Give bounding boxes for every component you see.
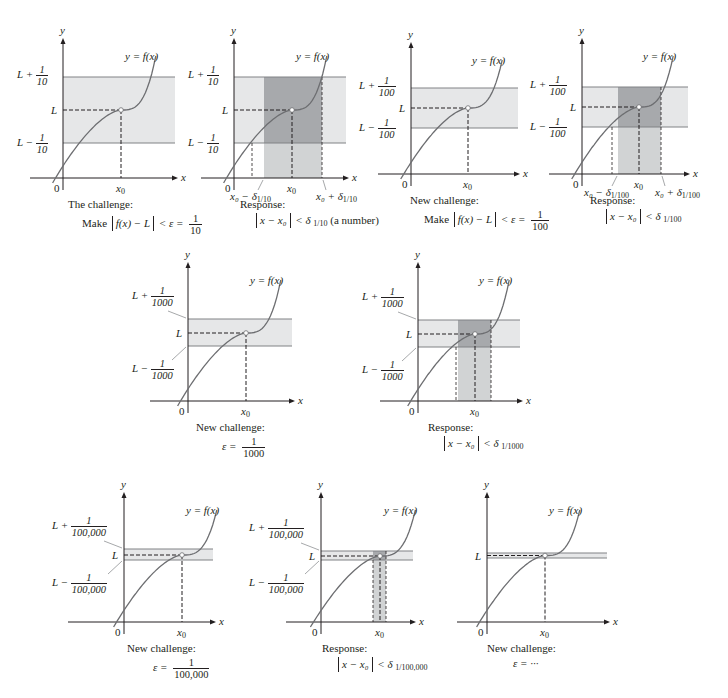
fraction-denominator: 10 [36,143,49,155]
function-curve [310,510,415,627]
origin-label: 0 [54,182,60,194]
caption-math: x − x₀ < δ 1/1000 [428,436,524,453]
lower-bound-prefix: L − [362,363,381,375]
lower-bound-prefix: L − [249,576,268,588]
upper-bound-prefix: L + [530,78,549,90]
fraction-numerator: 1 [192,213,199,224]
x-axis-label: x [526,394,531,406]
panel-caption: New challenge: ε = 11000 [196,421,265,459]
L-label: L [112,549,118,561]
y-axis-label: y [121,478,126,490]
fraction-numerator: 1 [383,75,390,86]
lower-bound-prefix: L − [132,362,151,374]
lower-bound-fraction: 1100 [549,116,567,139]
absolute-value-expression: f(x) − L [454,212,496,227]
fraction-denominator: 1000 [151,296,174,308]
caption-subscript: 1/100,000 [395,663,427,672]
L-label: L [51,104,57,116]
x-axis-label: x [352,171,357,183]
lower-bound-fraction: 1100 [378,117,396,140]
lower-bound-fraction: 1100,000 [268,572,304,595]
x0-label: x0 [470,405,479,421]
epsilon-fraction: 11000 [242,436,265,459]
figure-canvas [0,0,728,698]
fraction-numerator: 1 [554,74,561,85]
upper-bound-label: L + 110 [188,64,219,87]
lower-bound-label: L − 1100 [530,116,567,139]
absolute-value-expression: x − x₀ [606,209,641,224]
epsilon-fraction: 1100,000 [173,657,209,680]
caption-relation: ε = [153,661,170,673]
fraction-denominator: 1000 [242,447,265,459]
upper-bound-label: L + 11000 [132,285,174,308]
x0-subscript: 0 [121,187,125,196]
x-axis-arrow-icon [343,176,349,181]
function-curve [477,510,580,627]
x0-subscript: 0 [380,631,384,640]
origin-label: 0 [115,626,121,638]
x0-label: x0 [177,626,186,642]
x-axis-arrow-icon [172,176,178,181]
lower-bound-label: L − 11000 [362,359,404,382]
delta-left-leader [612,176,617,186]
absolute-value-expression: x − x₀ [444,436,479,451]
limit-point-marker [180,553,185,558]
x-axis-arrow-icon [514,172,520,177]
limit-point-marker [466,106,471,111]
fraction-numerator: 1 [85,572,92,583]
lower-bound-prefix: L − [52,576,71,588]
caption-subscript: 1/1000 [501,442,523,451]
origin-label: 0 [179,405,185,417]
delta-strip [264,143,322,178]
x0-subscript: 0 [475,410,479,419]
lower-bound-prefix: L − [359,121,378,133]
lower-leader-line [305,561,319,574]
panel-caption: The challenge:Make f(x) − L < ε = 110 [68,198,202,236]
x0-label: x0 [241,405,250,421]
L-label: L [406,328,412,340]
fraction-denominator: 100,000 [71,526,107,538]
curve-label: y = f(x) [479,274,512,286]
x0-subscript: 0 [545,631,549,640]
x-axis-arrow-icon [289,399,295,404]
x-axis-label: x [181,171,186,183]
limit-point-marker [637,105,642,110]
L-label: L [176,327,182,339]
y-axis-arrow-icon [485,492,490,498]
upper-bound-label: L + 1100 [530,74,567,97]
delta-right-leader [323,180,326,190]
absolute-value-expression: x − x₀ [338,657,373,672]
delta-subscript: 1/100 [682,191,700,200]
fraction-denominator: 100,000 [268,528,304,540]
upper-leader-line [104,541,122,548]
panel-caption: Response:x − x₀ < δ 1/1000 [428,421,524,453]
caption-relation: < ε = [498,213,528,225]
fraction-denominator: 100 [549,127,567,139]
fraction-denominator: 10 [207,143,220,155]
lower-bound-fraction: 110 [36,132,49,155]
limit-point-marker [378,554,383,559]
fraction-denominator: 100 [549,85,567,97]
caption-relation: < δ [293,214,314,226]
caption-math: Make f(x) − L < ε = 110 [68,213,202,236]
curve-label: y = f(x) [125,50,158,62]
fraction-denominator: 1000 [151,369,174,381]
fraction-numerator: 1 [282,572,289,583]
lower-bound-prefix: L − [530,120,549,132]
caption-prefix: Make [82,217,110,229]
x-axis-label: x [219,615,224,627]
caption-title: Response: [590,194,682,207]
y-axis-label: y [318,478,323,490]
upper-bound-fraction: 1100,000 [268,517,304,540]
fraction-denominator: 100,000 [71,583,107,595]
origin-label: 0 [402,178,408,190]
panel-caption: New challenge: ε = ··· [487,642,556,670]
upper-bound-prefix: L + [362,290,381,302]
y-axis-arrow-icon [319,492,324,498]
fraction-denominator: 100,000 [268,583,304,595]
upper-leader-line [168,311,186,318]
caption-subscript: 1/100 [663,215,681,224]
upper-bound-label: L + 1100 [359,75,396,98]
caption-relation: < δ [375,658,396,670]
fraction-denominator: 10 [36,75,49,87]
